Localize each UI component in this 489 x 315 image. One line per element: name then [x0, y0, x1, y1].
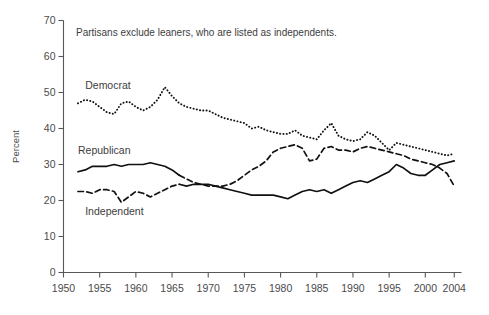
y-axis-tick-label-60: 60: [44, 50, 56, 62]
y-axis-tick-label-50: 50: [44, 86, 56, 98]
line-chart: 0102030405060701950195519601965197019751…: [0, 0, 489, 315]
chart-container: 0102030405060701950195519601965197019751…: [0, 0, 489, 315]
x-axis-tick-label-1950: 1950: [52, 282, 76, 294]
y-axis-tick-label-10: 10: [44, 230, 56, 242]
series-line-republican-early: [78, 163, 179, 176]
x-axis-tick-label-1970: 1970: [197, 282, 221, 294]
series-label-republican: Republican: [78, 144, 131, 156]
x-axis-tick-label-1995: 1995: [377, 282, 401, 294]
chart-annotation: Partisans exclude leaners, who are liste…: [76, 27, 337, 38]
x-axis-tick-label-1985: 1985: [305, 282, 329, 294]
x-axis-tick-label-1955: 1955: [88, 282, 112, 294]
x-axis-tick-label-2004: 2004: [443, 282, 467, 294]
y-axis-tick-label-30: 30: [44, 158, 56, 170]
x-axis-tick-label-1965: 1965: [160, 282, 184, 294]
y-axis-tick-label-70: 70: [44, 14, 56, 26]
y-axis-tick-label-0: 0: [50, 266, 56, 278]
series-line-republican: [179, 145, 454, 186]
y-axis-tick-label-20: 20: [44, 194, 56, 206]
x-axis-tick-label-1990: 1990: [341, 282, 365, 294]
x-axis-tick-label-1960: 1960: [124, 282, 148, 294]
y-axis-title: Percent: [10, 130, 21, 163]
series-label-democrat: Democrat: [85, 79, 131, 91]
y-axis-tick-label-40: 40: [44, 122, 56, 134]
x-axis-tick-label-1980: 1980: [269, 282, 293, 294]
x-axis-tick-label-2000: 2000: [414, 282, 438, 294]
series-label-independent: Independent: [85, 205, 143, 217]
series-line-democrat: [78, 87, 454, 155]
series-line-independent: [179, 161, 454, 199]
x-axis-tick-label-1975: 1975: [233, 282, 257, 294]
series-line-independent-early: [78, 184, 179, 202]
